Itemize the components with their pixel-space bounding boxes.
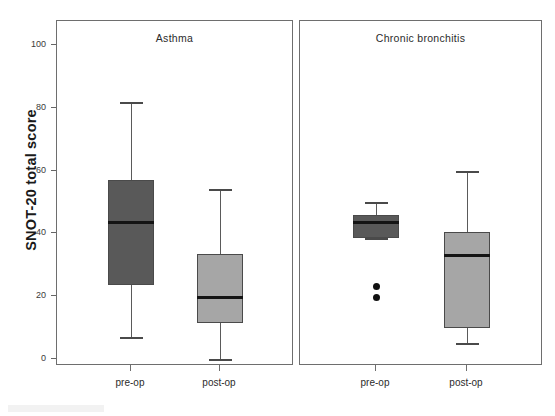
whisker-upper xyxy=(467,171,468,232)
x-tick-label-pre-op: pre-op xyxy=(361,377,390,388)
whisker-cap-lower xyxy=(209,359,232,361)
whisker-upper xyxy=(220,189,221,253)
plot-area-chronic-bronchitis xyxy=(300,21,541,364)
x-tick-mark xyxy=(219,365,220,371)
box-iqr xyxy=(197,254,243,323)
y-axis-ticks: 020406080100 xyxy=(0,0,56,416)
whisker-lower xyxy=(220,323,221,359)
whisker-cap-upper xyxy=(209,189,232,191)
boxplot-figure: SNOT-20 total score 020406080100 Asthma … xyxy=(0,0,555,416)
x-tick-label-post-op: post-op xyxy=(449,377,482,388)
whisker-lower xyxy=(467,328,468,344)
footer-artifact xyxy=(8,405,104,412)
boxplot-asthma-post-op xyxy=(57,21,292,364)
boxplot-chronic-bronchitis-post-op xyxy=(300,21,541,364)
x-tick-label-post-op: post-op xyxy=(202,377,235,388)
x-tick-mark xyxy=(130,365,131,371)
y-tick-label-100: 100 xyxy=(12,39,46,49)
y-tick-label-20: 20 xyxy=(12,290,46,300)
panel-chronic-bronchitis: Chronic bronchitis xyxy=(299,20,542,365)
median-line xyxy=(197,296,243,299)
plot-area-asthma xyxy=(57,21,292,364)
y-tick-label-80: 80 xyxy=(12,102,46,112)
median-line xyxy=(444,254,490,257)
y-tick-label-40: 40 xyxy=(12,227,46,237)
y-tick-label-60: 60 xyxy=(12,165,46,175)
x-tick-mark xyxy=(466,365,467,371)
y-tick-label-0: 0 xyxy=(12,353,46,363)
panel-asthma: Asthma xyxy=(56,20,293,365)
whisker-cap-lower xyxy=(456,343,479,345)
whisker-cap-upper xyxy=(456,171,479,173)
x-tick-label-pre-op: pre-op xyxy=(116,377,145,388)
box-iqr xyxy=(444,232,490,328)
x-tick-mark xyxy=(375,365,376,371)
